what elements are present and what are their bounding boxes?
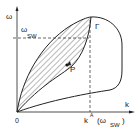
- paren-close-label: ): [122, 117, 125, 125]
- phase-diagram: [0, 0, 139, 128]
- y-axis-label: ω: [6, 13, 12, 21]
- kA-label: k: [84, 117, 88, 125]
- omega-sw-subscript: SW: [27, 33, 37, 39]
- paren-omega-label: (ω: [97, 117, 106, 125]
- kA-superscript: A: [90, 113, 93, 118]
- hatched-region: [17, 17, 91, 112]
- y-axis-arrow-icon: [16, 6, 19, 11]
- gamma-label: Γ: [95, 23, 99, 31]
- x-axis-arrow-icon: [129, 111, 135, 114]
- origin-label: 0: [15, 117, 19, 124]
- x-axis-label: k: [125, 101, 129, 109]
- paren-omega-subscript: SW: [110, 122, 120, 128]
- point-p-label: P: [70, 66, 75, 74]
